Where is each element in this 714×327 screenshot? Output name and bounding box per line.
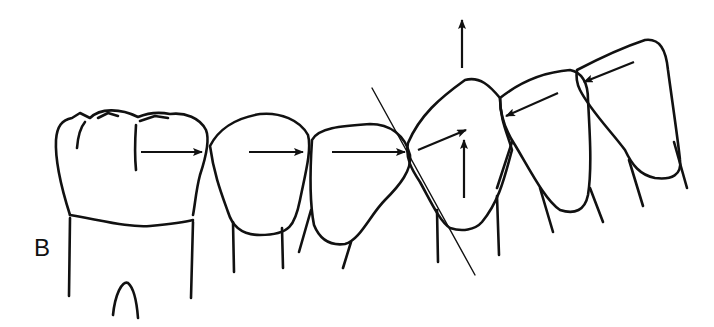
panel-label: B	[34, 236, 50, 260]
central-incisor-tooth	[576, 40, 687, 206]
distal-arrow-icon	[506, 93, 558, 116]
second-premolar-tooth	[210, 114, 309, 272]
first-premolar-tooth	[299, 124, 410, 268]
molar-tooth	[56, 110, 208, 318]
diagonal-arrow-icon	[418, 130, 466, 150]
dental-diagram	[0, 0, 714, 327]
distal-arrow-icon	[584, 62, 634, 82]
canine-tooth	[407, 20, 512, 262]
